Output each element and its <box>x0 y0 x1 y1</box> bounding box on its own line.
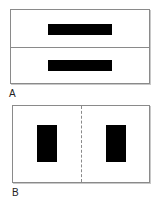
panel-b-right-bar <box>106 125 126 162</box>
panel-a-label: A <box>9 89 16 99</box>
panel-a-bottom-bar <box>48 60 112 71</box>
panel-b-label: B <box>12 188 19 198</box>
panel-b <box>12 105 150 183</box>
panel-b-dashed-divider <box>81 106 82 182</box>
panel-b-left-bar <box>37 125 57 162</box>
panel-a-horizontal-divider <box>11 47 149 48</box>
panel-a-top-bar <box>48 24 112 35</box>
panel-a <box>10 9 150 84</box>
